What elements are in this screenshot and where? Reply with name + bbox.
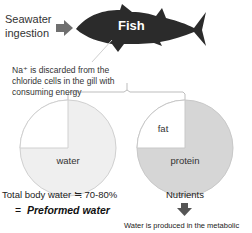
fat-segment-label: fat (148, 123, 178, 134)
metabolic-water-caption: Water is produced in the metabolic (124, 221, 239, 230)
preformed-water-line: = Preformed water (15, 204, 110, 216)
seawater-label-line2: ingestion (5, 26, 51, 40)
total-body-water-caption: Total body water ≒ 70-80% (2, 189, 117, 200)
note-line1: Na⁺ is discarded from the (12, 65, 142, 76)
note-line2: chloride cells in the gill with (12, 76, 142, 87)
preformed-water-label: Preformed water (27, 204, 110, 216)
water-segment-label: water (48, 155, 88, 166)
right-pie-chart (137, 100, 233, 196)
seawater-ingestion-label: Seawater ingestion (5, 12, 51, 40)
protein-segment-label: protein (160, 155, 210, 166)
down-arrow-icon (177, 203, 192, 216)
equals-sign: = (15, 204, 21, 216)
fish-label: Fish (118, 18, 145, 33)
right-arrow-icon (56, 20, 73, 36)
left-pie-chart (20, 100, 116, 196)
nutrients-caption: Nutrients (166, 189, 204, 200)
note-line3: consuming energy (12, 87, 142, 98)
seawater-label-line1: Seawater (5, 12, 51, 26)
sodium-note: Na⁺ is discarded from the chloride cells… (12, 65, 142, 98)
leader-line (92, 40, 112, 62)
